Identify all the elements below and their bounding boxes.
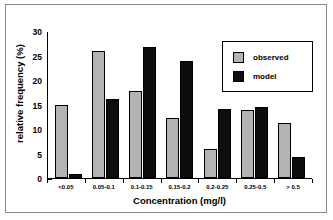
legend-label-model: model — [253, 72, 277, 81]
y-axis-tick-labels: 051015202530 — [22, 32, 42, 179]
x-axis-tick-labels: <0.050.05-0.10.1-0.150.15-0.20.2-0.250.2… — [47, 184, 312, 195]
x-tick-label: > 0.5 — [274, 184, 312, 195]
bar-model — [69, 174, 82, 178]
bar-observed — [278, 123, 291, 178]
y-tick-label: 25 — [33, 53, 42, 62]
x-tick — [161, 179, 162, 183]
x-tick-label: 0.15-0.2 — [161, 184, 199, 195]
bar-model — [292, 157, 305, 178]
y-tick-label: 20 — [33, 77, 42, 86]
legend-item-observed: observed — [233, 48, 312, 67]
x-tick-label: 0.2-0.25 — [198, 184, 236, 195]
y-tick-label: 0 — [37, 175, 42, 184]
y-tick-label: 5 — [37, 151, 42, 160]
legend: observed model — [222, 41, 313, 92]
x-tick-label: 0.05-0.1 — [85, 184, 123, 195]
y-tick-label: 15 — [33, 102, 42, 111]
bar-group — [124, 32, 161, 178]
bar-model — [180, 61, 193, 178]
x-tick — [123, 179, 124, 183]
bar-model — [218, 109, 231, 178]
x-tick-label: <0.05 — [47, 184, 85, 195]
x-tick — [85, 179, 86, 183]
y-tick-label: 10 — [33, 126, 42, 135]
bar-group — [50, 32, 87, 178]
bar-observed — [129, 91, 142, 178]
figure-container: relative frequency (%) 051015202530 <0.0… — [0, 0, 333, 220]
x-tick — [274, 179, 275, 183]
bar-group — [161, 32, 198, 178]
bar-observed — [204, 149, 217, 178]
legend-item-model: model — [233, 67, 312, 86]
legend-swatch-model-icon — [233, 71, 244, 82]
legend-swatch-observed-icon — [233, 52, 244, 63]
x-axis-title: Concentration (mg/l) — [47, 195, 312, 206]
bar-model — [106, 99, 119, 178]
bar-observed — [55, 105, 68, 178]
bar-model — [255, 107, 268, 178]
x-tick — [236, 179, 237, 183]
bar-group — [87, 32, 124, 178]
x-tick — [198, 179, 199, 183]
x-tick — [47, 179, 48, 183]
x-tick-label: 0.25-0.5 — [236, 184, 274, 195]
bar-model — [143, 47, 156, 178]
bar-observed — [92, 51, 105, 178]
bar-observed — [166, 118, 179, 178]
y-tick-label: 30 — [33, 28, 42, 37]
x-tick-label: 0.1-0.15 — [123, 184, 161, 195]
bar-observed — [241, 110, 254, 178]
legend-label-observed: observed — [253, 53, 289, 62]
x-tick — [312, 179, 313, 183]
